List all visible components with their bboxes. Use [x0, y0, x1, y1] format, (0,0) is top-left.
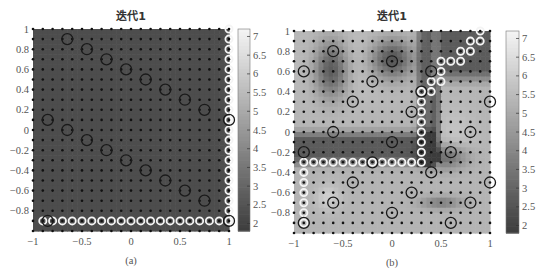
svg-text:7: 7: [522, 33, 527, 44]
svg-text:0.5: 0.5: [173, 236, 186, 247]
x-axis-ticks: −1−0.500.51: [288, 238, 492, 249]
x-axis-ticks: −1−0.500.51: [27, 236, 231, 247]
svg-text:0.8: 0.8: [16, 44, 29, 55]
svg-text:−0.5: −0.5: [333, 238, 352, 249]
svg-text:−0.8: −0.8: [10, 205, 29, 216]
svg-text:−0.6: −0.6: [10, 185, 29, 196]
svg-text:3.5: 3.5: [253, 162, 266, 173]
y-axis-ticks: 10.80.60.40.20−0.2−0.4−0.6−0.8: [10, 24, 30, 217]
svg-text:4.5: 4.5: [522, 127, 535, 138]
svg-text:3.5: 3.5: [522, 164, 535, 175]
svg-text:−0.4: −0.4: [271, 167, 291, 178]
svg-text:1: 1: [226, 236, 231, 247]
svg-text:6: 6: [522, 70, 527, 81]
svg-text:5: 5: [253, 106, 258, 117]
svg-text:0.6: 0.6: [16, 64, 29, 75]
svg-text:0: 0: [128, 236, 133, 247]
chart-title: 迭代1: [116, 9, 146, 23]
svg-text:1: 1: [24, 24, 29, 35]
grid-points: [293, 30, 492, 235]
svg-text:3: 3: [253, 181, 258, 192]
svg-text:−0.2: −0.2: [10, 145, 29, 156]
panel-a: 迭代110.80.60.40.20−0.2−0.4−0.6−0.8−1−0.50…: [0, 0, 270, 272]
svg-text:−0.4: −0.4: [10, 165, 30, 176]
svg-text:−0.8: −0.8: [271, 207, 290, 218]
svg-text:5.5: 5.5: [253, 87, 266, 98]
svg-text:0: 0: [389, 238, 394, 249]
svg-text:2: 2: [522, 220, 527, 231]
heatmap-a: 迭代110.80.60.40.20−0.2−0.4−0.6−0.8−1−0.50…: [0, 0, 270, 272]
svg-text:5.5: 5.5: [522, 89, 535, 100]
svg-text:−1: −1: [27, 236, 38, 247]
svg-text:0.5: 0.5: [434, 238, 447, 249]
svg-text:0.2: 0.2: [277, 106, 290, 117]
svg-text:−0.2: −0.2: [271, 147, 290, 158]
panel-caption: (b): [386, 257, 399, 269]
svg-text:2.5: 2.5: [522, 201, 535, 212]
svg-text:0.6: 0.6: [277, 66, 290, 77]
svg-text:2.5: 2.5: [253, 199, 266, 210]
svg-text:2: 2: [253, 218, 258, 229]
svg-text:4.5: 4.5: [253, 125, 266, 136]
svg-text:6.5: 6.5: [522, 52, 535, 63]
colorbar: 76.565.554.543.532.52: [506, 31, 535, 234]
svg-text:0: 0: [285, 127, 290, 138]
svg-text:6.5: 6.5: [253, 50, 266, 61]
svg-text:0.8: 0.8: [277, 46, 290, 57]
svg-text:4: 4: [522, 145, 528, 156]
svg-text:6: 6: [253, 68, 258, 79]
svg-text:−0.6: −0.6: [271, 187, 290, 198]
panel-b: 迭代110.80.60.40.20−0.2−0.4−0.6−0.8−1−0.50…: [270, 0, 543, 272]
heatmap-b: 迭代110.80.60.40.20−0.2−0.4−0.6−0.8−1−0.50…: [270, 0, 543, 272]
svg-text:0: 0: [24, 125, 29, 136]
svg-text:1: 1: [487, 238, 492, 249]
svg-text:0.4: 0.4: [277, 86, 291, 97]
y-axis-ticks: 10.80.60.40.20−0.2−0.4−0.6−0.8: [271, 26, 291, 219]
svg-text:7: 7: [253, 31, 258, 42]
svg-text:−0.5: −0.5: [72, 236, 91, 247]
svg-text:0.2: 0.2: [16, 104, 29, 115]
panel-caption: (a): [125, 255, 137, 267]
svg-text:4: 4: [253, 143, 259, 154]
svg-text:−1: −1: [288, 238, 299, 249]
svg-text:3: 3: [522, 183, 527, 194]
colorbar: 76.565.554.543.532.52: [238, 29, 266, 232]
svg-text:0.4: 0.4: [16, 84, 30, 95]
chart-title: 迭代1: [377, 9, 407, 23]
svg-text:1: 1: [285, 26, 290, 37]
svg-text:5: 5: [522, 108, 527, 119]
